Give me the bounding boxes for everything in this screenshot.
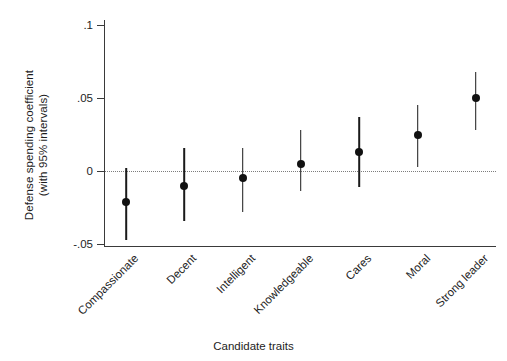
y-tick-mark <box>97 244 104 245</box>
x-axis-tick-label: Moral <box>403 252 432 281</box>
x-axis-tick-label: Decent <box>165 252 199 286</box>
coefficient-point-marker <box>122 198 130 206</box>
x-axis-title: Candidate traits <box>0 340 507 352</box>
x-axis-tick-label: Compassionate <box>75 252 140 317</box>
coefficient-point-marker <box>239 174 247 182</box>
y-tick-mark <box>97 98 104 99</box>
y-tick-mark <box>97 171 104 172</box>
coefficient-point-marker <box>472 94 480 102</box>
y-axis-line <box>104 20 105 247</box>
y-axis-title: Defense spending coefficient (with 95% i… <box>22 35 50 255</box>
y-tick-label: 0 <box>87 165 93 177</box>
y-tick-label: .1 <box>83 19 93 31</box>
y-tick-label: .05 <box>77 92 93 104</box>
coefficient-plot-figure: Defense spending coefficient (with 95% i… <box>0 0 507 361</box>
x-axis-tick-label: Intelligent <box>214 252 257 295</box>
y-tick-mark <box>97 25 104 26</box>
x-axis-tick-label: Knowledgeable <box>251 252 315 316</box>
x-axis-tick-label: Cares <box>343 252 373 282</box>
coefficient-point-marker <box>355 148 363 156</box>
coefficient-point-marker <box>297 160 305 168</box>
x-axis-tick-label: Strong leader <box>433 252 490 309</box>
coefficient-point-marker <box>180 182 188 190</box>
y-tick-label: -.05 <box>73 238 93 250</box>
x-axis-line <box>104 246 496 247</box>
coefficient-point-marker <box>414 131 422 139</box>
